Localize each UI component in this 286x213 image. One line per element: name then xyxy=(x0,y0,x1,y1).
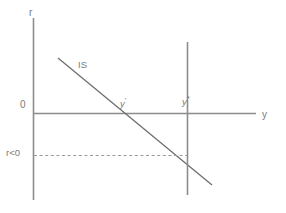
is-curve xyxy=(58,58,212,185)
negative-rate-label: r<0 xyxy=(6,148,20,158)
r-axis-label: r xyxy=(29,8,32,18)
origin-label: 0 xyxy=(20,100,26,110)
y-prime-mark: ' xyxy=(125,96,127,105)
y-star-label: y* xyxy=(182,95,190,107)
y-prime-label: y' xyxy=(120,97,126,109)
y-star-mark: * xyxy=(187,94,190,103)
is-curve-figure: r y 0 r<0 IS y' y* xyxy=(0,0,286,213)
y-axis-label: y xyxy=(262,110,267,120)
is-curve-label: IS xyxy=(78,60,87,70)
figure-canvas xyxy=(0,0,286,213)
